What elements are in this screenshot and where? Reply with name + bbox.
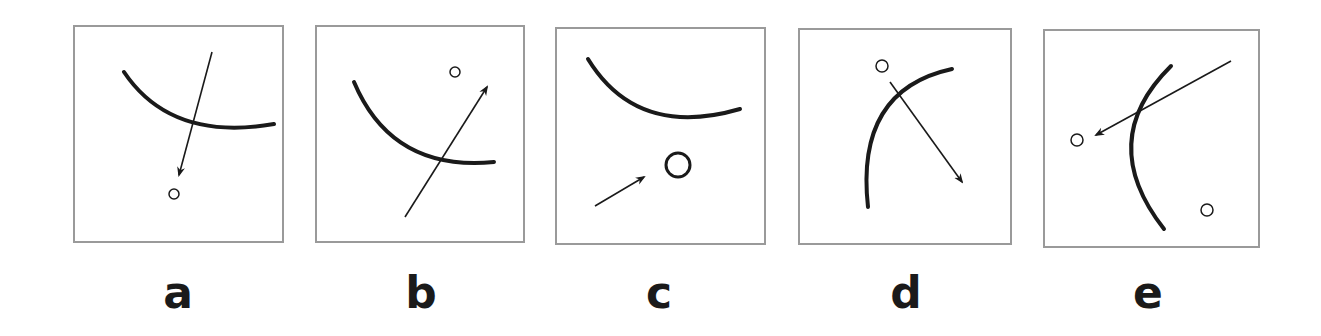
panel-label-a: a: [148, 268, 208, 318]
arrow-icon: [595, 177, 644, 206]
panel-b-drawing: [317, 27, 527, 245]
curved-barrier: [866, 69, 952, 207]
panel-d-drawing: [800, 30, 1014, 247]
panel-a: [73, 25, 284, 243]
panel-label-b: b: [391, 268, 451, 318]
panel-label-c: c: [629, 268, 689, 318]
panel-c-drawing: [557, 29, 768, 247]
curved-barrier: [588, 59, 740, 117]
target-circle: [450, 67, 460, 77]
panel-e-drawing: [1045, 31, 1262, 250]
panel-label-d: d: [876, 268, 936, 318]
target-circle: [876, 60, 888, 72]
arrow-icon: [179, 52, 212, 175]
target-circle: [169, 189, 179, 199]
panel-b: [315, 25, 525, 243]
panel-d: [798, 28, 1012, 245]
curved-barrier: [1131, 66, 1171, 229]
secondary-circle: [1201, 204, 1213, 216]
curved-barrier: [354, 82, 494, 163]
panel-label-e: e: [1118, 268, 1178, 318]
arrow-icon: [890, 82, 962, 182]
panel-c: [555, 27, 766, 245]
panel-e: [1043, 29, 1260, 248]
target-circle: [1071, 134, 1083, 146]
target-circle: [666, 153, 690, 177]
panel-a-drawing: [75, 27, 286, 245]
